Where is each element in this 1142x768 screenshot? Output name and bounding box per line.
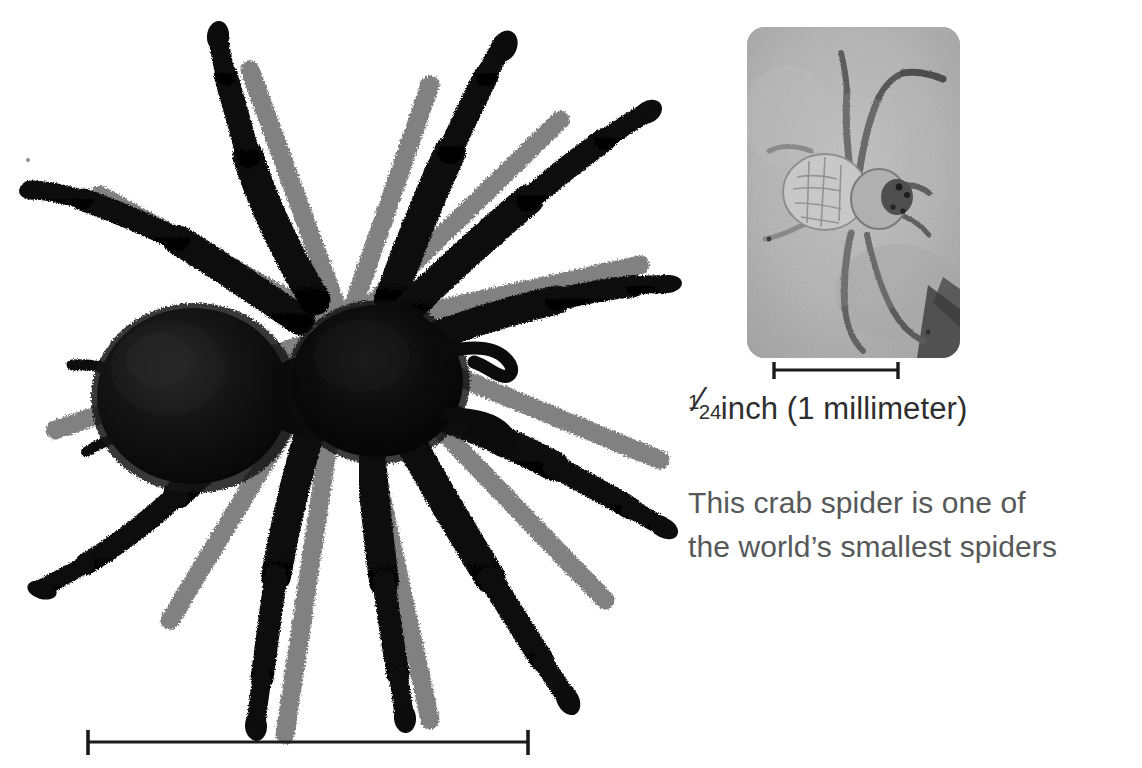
tarantula-illustration — [0, 0, 700, 768]
spider-abdomen — [91, 303, 299, 493]
scale-unit-label: inch (1 millimeter) — [721, 391, 968, 426]
crab-spider-illustration — [747, 27, 960, 358]
main-scale-bar — [86, 728, 530, 758]
photo-caption-line-1: This crab spider is one of — [688, 481, 1140, 525]
tarantula-photo — [0, 0, 700, 768]
page-stage: 1 ⁄ 24 inch (1 millimeter) This crab spi… — [0, 0, 1142, 768]
crab-spider-inset-photo — [747, 27, 960, 358]
dust-speck — [26, 158, 30, 162]
inset-scale-bar — [772, 360, 900, 382]
scale-caption: 1 ⁄ 24 inch (1 millimeter) — [688, 388, 967, 429]
fraction-one-twentyfourth: 1 ⁄ 24 — [688, 388, 717, 419]
photo-caption: This crab spider is one of the world’s s… — [688, 481, 1140, 569]
spider-cephalothorax — [286, 300, 470, 464]
photo-caption-line-2: the world’s smallest spiders — [688, 525, 1140, 569]
fraction-denominator: 24 — [699, 392, 722, 432]
